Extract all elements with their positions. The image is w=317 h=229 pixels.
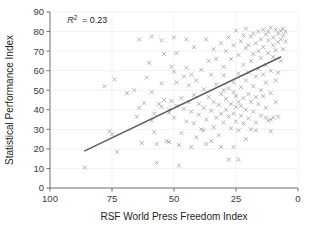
data-point <box>125 91 128 94</box>
data-point <box>185 38 188 41</box>
data-point <box>210 139 213 142</box>
data-point <box>237 158 240 161</box>
data-point <box>192 122 195 125</box>
data-point <box>185 120 188 123</box>
data-point <box>175 81 178 84</box>
data-point <box>249 59 252 62</box>
data-point <box>214 57 217 60</box>
data-point <box>274 28 277 31</box>
data-point <box>195 79 198 82</box>
gridlines <box>50 12 298 188</box>
data-point <box>239 114 242 117</box>
data-point <box>269 91 272 94</box>
data-point <box>192 93 195 96</box>
data-point <box>160 105 163 108</box>
data-point <box>244 79 247 82</box>
data-point <box>264 106 267 109</box>
data-point <box>239 104 242 107</box>
data-point <box>162 52 165 55</box>
data-point <box>148 61 151 64</box>
data-point <box>249 100 252 103</box>
data-point <box>262 28 265 31</box>
data-point <box>222 121 225 124</box>
data-point <box>247 44 250 47</box>
data-point <box>138 106 141 109</box>
data-point <box>212 126 215 129</box>
data-point <box>162 98 165 101</box>
data-point <box>135 115 138 118</box>
data-point <box>205 38 208 41</box>
scatter-plot: 01020304050607080901007550250 RSF World … <box>0 0 317 229</box>
data-points-layer <box>83 26 287 169</box>
data-point <box>152 131 155 134</box>
data-point <box>219 92 222 95</box>
trendline <box>85 57 281 151</box>
data-point <box>284 40 287 43</box>
data-point <box>279 59 282 62</box>
data-point <box>170 65 173 68</box>
data-point <box>217 134 220 137</box>
data-point <box>190 73 193 76</box>
y-tick-label: 60 <box>33 65 44 76</box>
x-tick-label: 0 <box>295 193 300 204</box>
data-point <box>187 84 190 87</box>
trendline-segment <box>85 57 281 151</box>
annotations: R2 = 0.23 <box>67 13 107 25</box>
data-point <box>242 96 245 99</box>
x-axis-title: RSF World Press Freedom Index <box>100 211 247 222</box>
data-point <box>210 73 213 76</box>
data-point <box>177 143 180 146</box>
data-point <box>155 161 158 164</box>
data-point <box>140 141 143 144</box>
data-point <box>205 142 208 145</box>
data-point <box>175 51 178 54</box>
data-point <box>212 100 215 103</box>
data-point <box>229 102 232 105</box>
data-point <box>115 150 118 153</box>
data-point <box>247 92 250 95</box>
data-point <box>207 95 210 98</box>
chart-figure: 01020304050607080901007550250 RSF World … <box>0 0 317 229</box>
data-point <box>182 75 185 78</box>
data-point <box>227 36 230 39</box>
data-point <box>180 96 183 99</box>
data-point <box>113 78 116 81</box>
data-point <box>217 103 220 106</box>
data-point <box>257 102 260 105</box>
data-point <box>224 97 227 100</box>
data-point <box>212 47 215 50</box>
data-point <box>272 55 275 58</box>
data-point <box>264 81 267 84</box>
data-point <box>269 130 272 133</box>
y-tick-label: 50 <box>33 85 44 96</box>
data-point <box>170 99 173 102</box>
data-point <box>232 145 235 148</box>
data-point <box>152 112 155 115</box>
data-point <box>219 145 222 148</box>
data-point <box>219 42 222 45</box>
r-squared-annotation: R2 = 0.23 <box>67 13 107 25</box>
data-point <box>103 85 106 88</box>
data-point <box>202 106 205 109</box>
data-point <box>222 65 225 68</box>
data-point <box>252 85 255 88</box>
x-tick-label: 50 <box>169 193 180 204</box>
x-tick-label: 25 <box>231 193 242 204</box>
data-point <box>254 42 257 45</box>
data-point <box>232 90 235 93</box>
data-point <box>254 95 257 98</box>
x-tick-label: 100 <box>42 193 58 204</box>
data-point <box>150 90 153 93</box>
data-point <box>219 112 222 115</box>
data-point <box>160 39 163 42</box>
data-point <box>160 82 163 85</box>
y-tick-label: 20 <box>33 143 44 154</box>
data-point <box>276 71 279 74</box>
data-point <box>155 142 158 145</box>
data-point <box>276 115 279 118</box>
data-point <box>262 94 265 97</box>
data-point <box>180 132 183 135</box>
data-point <box>227 87 230 90</box>
data-point <box>138 38 141 41</box>
data-point <box>195 135 198 138</box>
